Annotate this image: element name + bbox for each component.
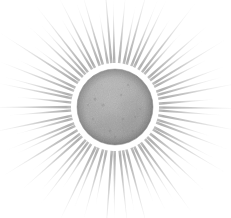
sun-illustration-figure: Monochrome engraving-style illustration … [0, 0, 231, 218]
sun-disc-group [77, 69, 153, 145]
sun-canvas [0, 0, 231, 218]
